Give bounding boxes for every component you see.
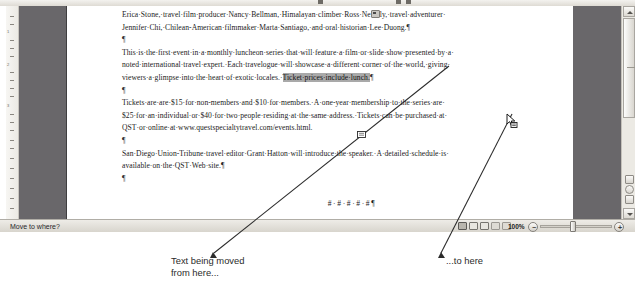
annotation-area: Text being moved from here... ...to here [0, 232, 635, 296]
paragraph-editor[interactable]: San·Diego·Union-Tribune·travel·editor·Gr… [122, 148, 582, 173]
ruler-label-1: 1 [7, 30, 9, 34]
scroll-up-button[interactable] [623, 6, 635, 17]
document-text-body[interactable]: Erica·Stone,·travel·film·producer·Nancy·… [122, 9, 582, 211]
paragraph-blank-4[interactable]: ¶ [122, 173, 582, 186]
series-line-1: This·is·the·first·event·in·a·monthly·lun… [122, 48, 454, 57]
series-line-2: noted·international·travel·expert.·Each·… [122, 60, 450, 69]
selected-text-highlight[interactable]: Ticket·prices·include·lunch. [283, 73, 370, 82]
document-window: 1 2 3 [0, 6, 635, 219]
status-message: Move to where? [10, 223, 60, 230]
paragraph-presenters[interactable]: Erica·Stone,·travel·film·producer·Nancy·… [122, 9, 582, 34]
scroll-down-button[interactable] [623, 208, 635, 219]
paragraph-series[interactable]: This·is·the·first·event·in·a·monthly·lun… [122, 47, 582, 85]
callout-left-line-2: from here... [171, 267, 244, 279]
pilcrow-3: ¶ [122, 136, 126, 145]
paragraph-blank-3[interactable]: ¶ [122, 135, 582, 148]
workspace-left [19, 6, 67, 219]
print-layout-view-icon[interactable] [458, 222, 467, 230]
paragraph-blank-2[interactable]: ¶ [122, 85, 582, 98]
paragraph-end-marks[interactable]: #·#·#·#·#¶ [122, 198, 582, 211]
pilcrow-2: ¶ [122, 86, 126, 95]
ruler-label-2: 2 [7, 63, 9, 67]
callout-right: ...to here [446, 255, 483, 267]
previous-page-icon[interactable] [625, 175, 634, 184]
paragraph-blank-1[interactable]: ¶ [122, 34, 582, 47]
zoom-level-label[interactable]: 100% [508, 223, 525, 230]
ruler-label-3: 3 [7, 104, 9, 108]
editor-line-2: available·on·the·QST·Web·site.¶ [122, 161, 224, 170]
toolbar-glyph-3 [406, 0, 411, 4]
full-screen-reading-view-icon[interactable] [469, 222, 478, 230]
presenters-line-1: Erica·Stone,·travel·film·producer·Nancy·… [122, 10, 371, 19]
smart-tag-icon[interactable] [371, 10, 380, 18]
drag-move-cursor-icon [506, 113, 518, 127]
scrollbar-thumb[interactable] [623, 18, 635, 118]
series-line-3: viewers·a·glimpse·into·the·heart·of·exot… [122, 73, 283, 82]
pilcrow-4: ¶ [122, 174, 126, 183]
zoom-in-button[interactable]: + [614, 222, 624, 232]
zoom-slider-thumb[interactable] [570, 221, 576, 232]
callout-left-line-1: Text being moved [171, 255, 244, 267]
drag-insertion-marker-icon [357, 126, 369, 140]
toolbar-glyph-2 [396, 0, 401, 4]
document-page[interactable]: Erica·Stone,·travel·film·producer·Nancy·… [67, 6, 573, 219]
browse-object-buttons[interactable] [624, 174, 635, 205]
screenshot-root: 1 2 3 [0, 0, 635, 296]
callout-left: Text being moved from here... [171, 255, 244, 279]
next-page-icon[interactable] [625, 195, 634, 204]
tickets-line-2: $25·for·an·individual·or·$40·for·two·peo… [122, 111, 447, 120]
toolbar-glyph-1 [318, 0, 323, 4]
tickets-line-3: QST·or·online·at·www.questspecialtytrave… [122, 123, 313, 132]
presenters-line-1b: ly,·travel·adventurer· [380, 10, 446, 19]
editor-line-1: San·Diego·Union-Tribune·travel·editor·Gr… [122, 149, 449, 158]
web-layout-view-icon[interactable] [480, 222, 489, 230]
presenters-line-2: Jennifer·Chi,·Chilean-American·filmmaker… [122, 23, 407, 32]
zoom-out-button[interactable]: − [528, 222, 538, 232]
pilcrow-series-end: ¶ [370, 73, 374, 82]
vertical-scrollbar[interactable] [621, 6, 635, 219]
vertical-ruler[interactable]: 1 2 3 [6, 6, 19, 219]
workspace-right [573, 6, 621, 219]
zoom-slider-track[interactable] [540, 225, 612, 228]
outline-view-icon[interactable] [491, 222, 500, 230]
tickets-line-1: Tickets·are·are·$15·for·non-members·and·… [122, 98, 445, 107]
select-browse-object-icon[interactable] [625, 185, 634, 194]
view-mode-buttons[interactable] [458, 222, 511, 230]
pilcrow-1: ¶ [122, 35, 126, 44]
